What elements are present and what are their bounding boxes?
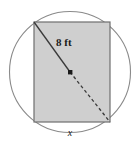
figure-canvas: 8 ft x: [0, 0, 140, 143]
center-point-marker: [68, 70, 72, 74]
diagonal-length-label: 8 ft: [56, 36, 72, 48]
geometry-figure: 8 ft x: [0, 0, 140, 143]
bottom-side-label: x: [67, 127, 73, 138]
